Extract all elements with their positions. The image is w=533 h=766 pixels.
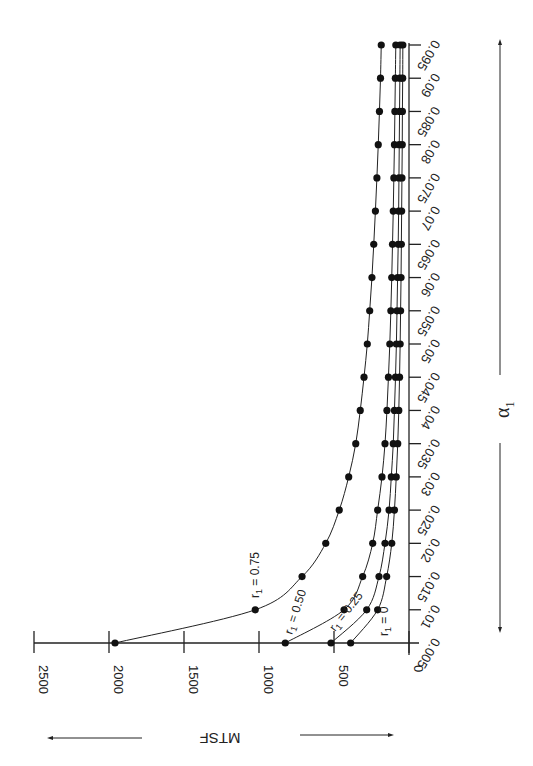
x-tick-label: 0.01: [418, 602, 444, 631]
x-tick-label: 0.085: [414, 104, 443, 140]
x-tick-label: 0.04: [418, 403, 444, 432]
x-tick-label: 0.065: [414, 237, 443, 273]
data-point: [372, 208, 379, 215]
data-point: [398, 174, 405, 181]
data-point: [398, 241, 405, 248]
data-point: [394, 440, 401, 447]
data-point: [359, 573, 366, 580]
curve-labels: r1 = 0.75 r1 = 0.50 r1 = 0.25 r1 = 0: [248, 552, 393, 637]
data-point: [381, 440, 388, 447]
data-point: [399, 75, 406, 82]
data-point: [370, 241, 377, 248]
x-tick-label: 0.025: [414, 503, 443, 539]
chart-axes: [34, 43, 421, 655]
x-tick-label: 0.06: [418, 270, 444, 299]
tick-labels: 050010001500200025000.0050.010.0150.020.…: [36, 38, 443, 694]
series-line-1: [285, 45, 396, 643]
data-point: [398, 208, 405, 215]
x-tick-label: 0.07: [418, 204, 444, 233]
data-point: [397, 274, 404, 281]
data-point: [383, 573, 390, 580]
data-point: [387, 307, 394, 314]
x-tick-label: 0.045: [414, 370, 443, 406]
data-point: [282, 639, 289, 646]
arrowhead-down-icon: [498, 627, 502, 633]
data-point: [388, 540, 395, 547]
data-point: [360, 374, 367, 381]
x-tick-label: 0.05: [418, 337, 444, 366]
data-point: [352, 440, 359, 447]
data-point: [347, 639, 354, 646]
data-point: [345, 473, 352, 480]
data-point: [399, 141, 406, 148]
data-point: [396, 374, 403, 381]
data-point: [364, 340, 371, 347]
data-point: [378, 473, 385, 480]
x-axis-title: α1: [491, 402, 517, 418]
mtsf-vs-alpha-chart: 050010001500200025000.0050.010.0150.020.…: [0, 0, 533, 766]
x-tick-label: 0.09: [418, 71, 444, 100]
data-point: [397, 307, 404, 314]
x-tick-label: 0.08: [418, 137, 444, 166]
x-tick-label: 0.02: [418, 536, 444, 565]
data-point: [327, 639, 334, 646]
y-axis-title-group: MTSF: [47, 730, 394, 747]
y-tick-label: 2500: [36, 665, 51, 694]
data-point: [383, 407, 390, 414]
y-tick-label: 1500: [186, 665, 201, 694]
data-point: [376, 108, 383, 115]
data-point: [377, 75, 384, 82]
x-tick-label: 0.095: [414, 38, 443, 74]
data-point: [399, 108, 406, 115]
curve-label-r1-050: r1 = 0.50: [282, 587, 312, 636]
data-point: [373, 174, 380, 181]
data-point: [252, 606, 259, 613]
data-point: [397, 340, 404, 347]
curve-label-r1-0: r1 = 0: [377, 606, 393, 636]
x-tick-label: 0.055: [414, 303, 443, 339]
data-point: [375, 141, 382, 148]
data-point: [298, 573, 305, 580]
data-point: [393, 473, 400, 480]
arrowhead-left-icon: [47, 736, 53, 740]
y-tick-label: 2000: [111, 665, 126, 694]
x-tick-label: 0.075: [414, 170, 443, 206]
data-point: [363, 606, 370, 613]
data-point: [374, 507, 381, 514]
data-point: [111, 639, 118, 646]
data-point: [391, 507, 398, 514]
x-tick-label: 0.03: [418, 469, 444, 498]
data-point: [381, 540, 388, 547]
data-point: [357, 407, 364, 414]
x-axis-title-group: α1: [491, 39, 517, 633]
data-point: [395, 407, 402, 414]
x-tick-label: 0.035: [414, 436, 443, 472]
data-point: [399, 41, 406, 48]
y-tick-label: 500: [336, 665, 351, 687]
y-axis-title: MTSF: [200, 730, 241, 747]
curve-label-r1-025: r1 = 0.25: [326, 589, 367, 635]
data-point: [385, 374, 392, 381]
curve-label-r1-075: r1 = 0.75: [248, 552, 264, 598]
data-point: [375, 573, 382, 580]
data-point: [366, 307, 373, 314]
data-point: [336, 507, 343, 514]
arrowhead-right-icon: [388, 733, 394, 737]
data-point: [368, 274, 375, 281]
data-point: [386, 340, 393, 347]
x-tick-label: 0.005: [414, 636, 443, 672]
data-point: [369, 540, 376, 547]
data-point: [378, 41, 385, 48]
data-point: [322, 540, 329, 547]
y-tick-label: 1000: [261, 665, 276, 694]
arrowhead-up-icon: [498, 39, 502, 45]
x-tick-label: 0.015: [414, 569, 443, 605]
